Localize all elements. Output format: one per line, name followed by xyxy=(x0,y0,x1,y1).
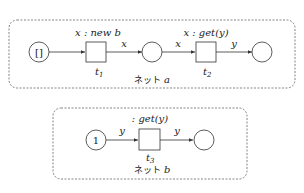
net-a-label: ネットa xyxy=(134,74,170,85)
transition-t2-guard: x : get(y) xyxy=(183,27,228,38)
place-a1-token: [] xyxy=(35,47,43,58)
place-a3 xyxy=(252,42,272,62)
transition-t3-label: t3 xyxy=(146,152,155,165)
transition-t2 xyxy=(196,42,216,62)
place-a2 xyxy=(142,42,162,62)
arc-b1-t3-label: y xyxy=(118,125,125,136)
transition-t1-label: t1 xyxy=(95,66,104,79)
transition-t1-guard: x : new b xyxy=(75,27,121,38)
transition-t3-guard: : get(y) xyxy=(132,113,168,124)
arc-a2-t2-label: x xyxy=(175,38,181,49)
net-b: 1 y : get(y) t3 y ネットb xyxy=(53,108,247,179)
place-b2 xyxy=(194,130,214,150)
petri-net-diagram: [] x : new b t1 x x x : get(y) t2 y ネットa… xyxy=(0,0,304,193)
net-b-label: ネットb xyxy=(134,164,170,175)
transition-t3 xyxy=(139,129,160,150)
transition-t1 xyxy=(86,42,106,62)
transition-t2-label: t2 xyxy=(203,66,212,79)
arc-t3-b2-label: y xyxy=(173,125,180,136)
net-a: [] x : new b t1 x x x : get(y) t2 y ネットa xyxy=(9,20,295,88)
arc-t1-a2-label: x xyxy=(121,38,127,49)
arc-t2-a3-label: y xyxy=(230,38,237,49)
place-b1-token: 1 xyxy=(93,135,99,146)
